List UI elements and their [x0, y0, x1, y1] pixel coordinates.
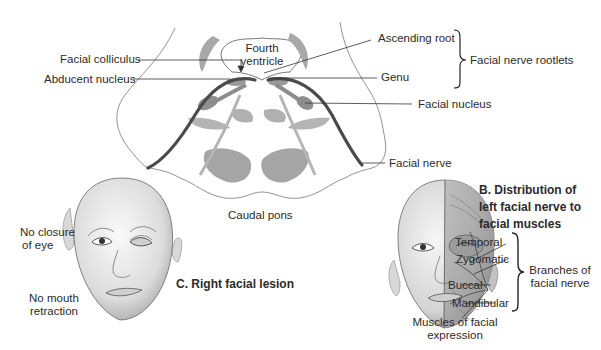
rootlets-brace [454, 30, 466, 88]
muscles-of-facial-expression-label: Muscles of facial expression [410, 316, 500, 342]
panel-c-title: C. Right facial lesion [176, 276, 294, 293]
eye-label-line2: of eye [20, 239, 75, 252]
fourth-ventricle-line1: Fourth [240, 42, 284, 55]
facial-nerve-rootlets-label: Facial nerve rootlets [470, 54, 574, 67]
ascending-root-label: Ascending root [378, 32, 455, 45]
facial-nerve-label: Facial nerve [389, 157, 452, 170]
no-closure-of-eye-label: No closure of eye [20, 226, 75, 252]
no-mouth-retraction-label: No mouth retraction [28, 292, 80, 318]
mouth-label-line1: No mouth [28, 292, 80, 305]
branches-group-line1: Branches of [522, 264, 598, 277]
branch-temporal-label: Temporal [455, 236, 502, 249]
panel-b-title-line2: left facial nerve to [479, 199, 581, 216]
facial-colliculus-label: Facial colliculus [60, 53, 141, 66]
fourth-ventricle-line2: ventricle [240, 55, 284, 68]
branches-of-facial-nerve-label: Branches of facial nerve [522, 264, 598, 290]
caudal-pons-caption: Caudal pons [228, 209, 293, 222]
branch-zygomatic-label: Zygomatic [456, 253, 509, 266]
branch-buccal-label: Buccal [448, 279, 483, 292]
genu-label: Genu [381, 71, 409, 84]
eye-label-line1: No closure [20, 226, 75, 239]
panel-b-title: B. Distribution of left facial nerve to … [479, 182, 581, 233]
panel-b-title-line1: B. Distribution of [479, 182, 581, 199]
branches-group-line2: facial nerve [522, 277, 598, 290]
facial-nucleus-label: Facial nucleus [418, 98, 492, 111]
panel-b-title-line3: facial muscles [479, 216, 581, 233]
muscles-caption-line1: Muscles of facial [410, 316, 500, 329]
face-right-lesion [63, 178, 182, 320]
fourth-ventricle-label: Fourth ventricle [240, 42, 284, 68]
branch-mandibular-label: Mandibular [452, 297, 509, 310]
muscles-caption-line2: expression [410, 329, 500, 342]
facial-nerve-diagram: Fourth ventricle Facial colliculus Abduc… [0, 0, 601, 350]
mouth-label-line2: retraction [28, 305, 80, 318]
abducent-nucleus-label: Abducent nucleus [44, 73, 135, 86]
